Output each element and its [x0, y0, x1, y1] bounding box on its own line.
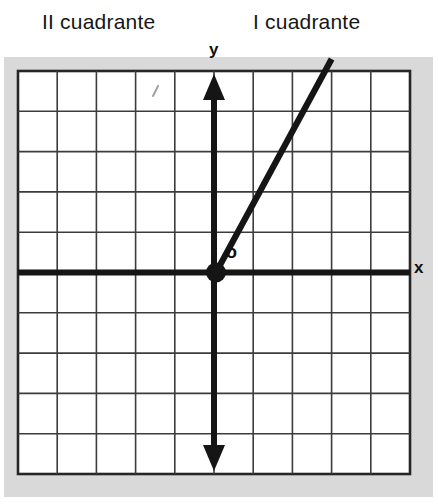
x-axis-label: x [414, 259, 423, 276]
coordinate-plane [0, 0, 438, 504]
origin-label: o [226, 243, 237, 261]
y-axis-label: y [209, 41, 218, 58]
origin-point [206, 263, 226, 283]
figure: II cuadrante I cuadrante y x o [0, 0, 438, 504]
